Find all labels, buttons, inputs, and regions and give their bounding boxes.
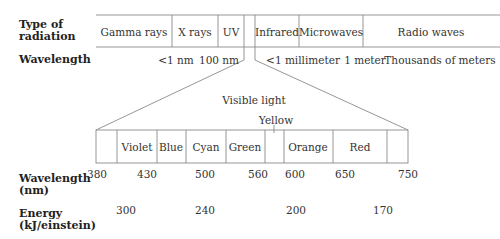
band-uv: UV — [223, 26, 239, 38]
wavelength-label: Wavelength — [19, 54, 91, 66]
wavelength-100nm: 100 nm — [199, 54, 239, 66]
wl-380: 380 — [87, 168, 107, 180]
wl-430: 430 — [137, 168, 157, 180]
wavelength-nm-label: Wavelength (nm) — [19, 173, 91, 197]
color-cyan: Cyan — [193, 141, 220, 153]
wavelength-thousands-m: Thousands of meters — [384, 54, 495, 66]
color-blue: Blue — [159, 141, 183, 153]
color-orange: Orange — [288, 141, 328, 153]
energy-200: 200 — [286, 204, 306, 216]
energy-300: 300 — [116, 204, 136, 216]
wavelength-1m: 1 meter — [344, 54, 386, 66]
energy-label: Energy (kJ/einstein) — [19, 208, 96, 232]
wl-560: 560 — [248, 168, 268, 180]
visible-light-title: Visible light — [222, 94, 286, 106]
band-x-rays: X rays — [178, 26, 211, 38]
yellow-label: Yellow — [259, 114, 293, 126]
color-green: Green — [229, 141, 262, 153]
wl-750: 750 — [398, 168, 418, 180]
energy-240: 240 — [195, 204, 215, 216]
wavelength-1nm: <1 nm — [158, 54, 194, 66]
wl-650: 650 — [335, 168, 355, 180]
color-red: Red — [350, 141, 371, 153]
label-line: radiation — [19, 31, 76, 43]
band-microwaves: Microwaves — [299, 26, 363, 38]
label-line: (nm) — [19, 185, 91, 197]
band-radio-waves: Radio waves — [398, 26, 465, 38]
band-infrared: Infrared — [255, 26, 299, 38]
wl-600: 600 — [285, 168, 305, 180]
band-gamma-rays: Gamma rays — [101, 26, 168, 38]
wl-500: 500 — [195, 168, 215, 180]
label-line: (kJ/einstein) — [19, 220, 96, 232]
color-violet: Violet — [122, 141, 153, 153]
wavelength-1mm: <1 millimeter — [266, 54, 340, 66]
type-of-radiation-label: Type of radiation — [19, 19, 76, 43]
energy-170: 170 — [373, 204, 393, 216]
